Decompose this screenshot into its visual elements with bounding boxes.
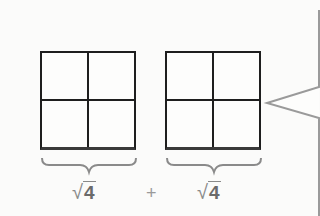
speech-bubble-pointer-icon <box>0 0 320 216</box>
